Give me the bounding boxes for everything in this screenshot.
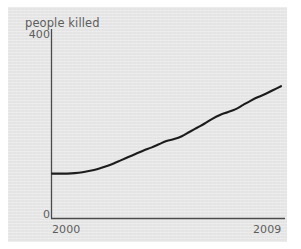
x-axis-end-tick-label: 2009 <box>253 224 281 236</box>
data-series-line <box>52 86 281 173</box>
y-axis-max-tick-label: 400 <box>27 29 50 41</box>
x-axis-start-tick-label: 2000 <box>52 224 80 236</box>
y-axis-min-tick-label: 0 <box>36 209 50 221</box>
chart-figure: people killed 400 0 2000 2009 <box>0 0 301 249</box>
